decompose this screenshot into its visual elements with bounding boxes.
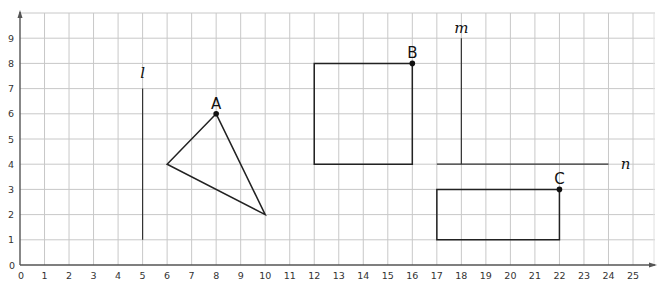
tick-labels: 0123456789101112131415161718192021222324… [8, 33, 639, 281]
x-tick-label: 21 [529, 270, 541, 281]
line-m-label: m [454, 19, 468, 37]
reflection-lines: lmn [140, 19, 630, 240]
x-tick-label: 0 [18, 270, 24, 281]
x-tick-label: 25 [627, 270, 639, 281]
y-tick-label: 8 [8, 58, 14, 69]
x-tick-label: 14 [357, 270, 369, 281]
point-c-label: C [554, 170, 564, 188]
x-tick-label: 20 [504, 270, 516, 281]
x-tick-label: 9 [238, 270, 244, 281]
x-tick-label: 8 [213, 270, 219, 281]
x-tick-label: 7 [189, 270, 195, 281]
x-tick-label: 3 [91, 270, 97, 281]
point-a-label: A [211, 95, 222, 113]
line-l-label: l [140, 64, 145, 82]
x-tick-label: 22 [553, 270, 565, 281]
x-tick-label: 11 [284, 270, 296, 281]
x-tick-label: 5 [140, 270, 146, 281]
y-tick-label: 0 [9, 260, 15, 271]
x-tick-label: 6 [164, 270, 170, 281]
x-tick-label: 1 [41, 270, 47, 281]
y-tick-label: 5 [8, 134, 14, 145]
y-tick-label: 6 [8, 108, 14, 119]
y-axis-arrow-icon [18, 10, 23, 18]
y-tick-label: 7 [8, 83, 14, 94]
y-tick-label: 9 [8, 33, 14, 44]
x-tick-label: 19 [480, 270, 492, 281]
line-n-label: n [621, 155, 631, 173]
x-tick-label: 16 [406, 270, 418, 281]
x-tick-label: 23 [578, 270, 590, 281]
x-tick-label: 15 [382, 270, 394, 281]
x-tick-label: 4 [115, 270, 121, 281]
x-tick-label: 17 [431, 270, 443, 281]
x-tick-label: 12 [308, 270, 320, 281]
x-tick-label: 13 [333, 270, 345, 281]
point-b-label: B [407, 44, 417, 62]
x-tick-label: 18 [455, 270, 467, 281]
x-tick-label: 2 [66, 270, 72, 281]
x-axis-arrow-icon [649, 263, 657, 268]
x-tick-label: 24 [602, 270, 614, 281]
x-tick-label: 10 [259, 270, 271, 281]
y-tick-label: 4 [8, 159, 14, 170]
coordinate-grid-diagram: 0123456789101112131415161718192021222324… [0, 0, 662, 299]
y-tick-label: 2 [8, 209, 14, 220]
y-tick-label: 3 [8, 184, 14, 195]
y-tick-label: 1 [8, 234, 14, 245]
